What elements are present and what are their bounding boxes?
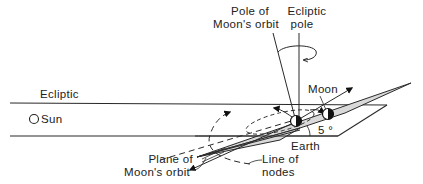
- moon-label: Moon: [308, 83, 338, 95]
- moon-orbit-diagram: Pole of Moon's orbit Ecliptic pole Moon …: [0, 0, 423, 184]
- angle-arc: [307, 126, 310, 136]
- plane-of-moons-orbit-label-1: Plane of: [148, 153, 193, 165]
- pole-rotation-arrow: [278, 46, 316, 60]
- pole-of-moons-orbit-label-1: Pole of: [231, 5, 269, 17]
- line-of-nodes-label-1: Line of: [262, 153, 299, 165]
- ecliptic-label: Ecliptic: [40, 88, 79, 100]
- nodes-leader-line: [248, 160, 262, 164]
- sun-icon: [30, 115, 39, 124]
- moon-icon: [323, 109, 334, 120]
- angle-label: 5 °: [318, 124, 333, 136]
- earth-label: Earth: [291, 140, 320, 152]
- line-of-nodes-label-2: nodes: [262, 166, 295, 178]
- ecliptic-pole-label-2: pole: [291, 18, 314, 30]
- plane-of-moons-orbit-label-2: Moon's orbit: [124, 166, 190, 178]
- sun-label: Sun: [41, 113, 62, 125]
- pole-of-moons-orbit-label-2: Moon's orbit: [213, 18, 279, 30]
- moon-leader-line: [320, 96, 326, 110]
- moon-orbit-pole-line: [273, 33, 295, 118]
- earth-icon: [291, 116, 302, 127]
- ecliptic-pole-label-1: Ecliptic: [288, 5, 327, 17]
- orbit-direction-arrow-left: [274, 108, 292, 117]
